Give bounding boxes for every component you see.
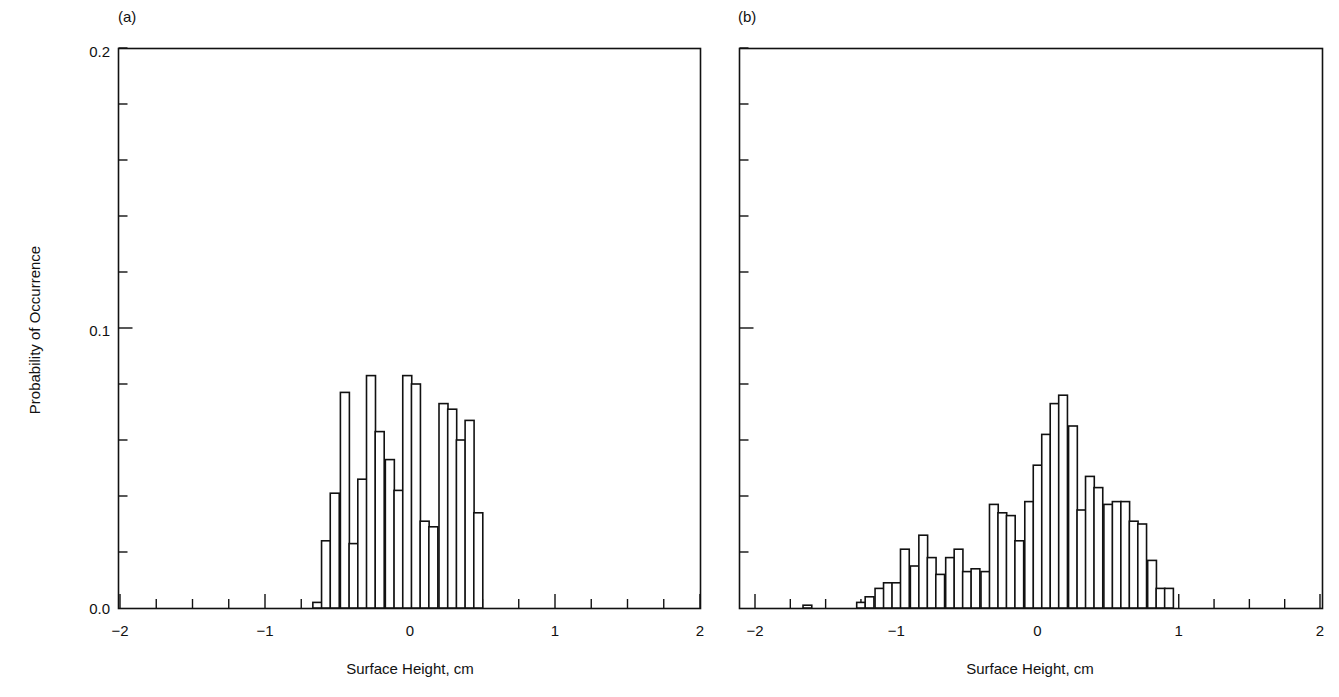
histogram-bar: [313, 602, 322, 608]
x-tick-label: −1: [888, 622, 905, 639]
histogram-bar: [1069, 426, 1078, 608]
panel-b-x-tick-labels: −2−1012: [746, 622, 1324, 639]
histogram-bar: [385, 460, 394, 608]
panel-a-x-axis-label: Surface Height, cm: [346, 660, 474, 677]
histogram-bar: [1025, 502, 1034, 608]
histogram-bar: [936, 574, 945, 608]
histogram-bar: [892, 583, 901, 608]
x-tick-label: 2: [1316, 622, 1324, 639]
histogram-bar: [1104, 504, 1113, 608]
histogram-bar: [411, 384, 420, 608]
histogram-bar: [1148, 560, 1157, 608]
panel-a-x-tick-labels: −2−1012: [111, 622, 704, 639]
histogram-bar: [910, 566, 919, 608]
histogram-bar: [900, 549, 909, 608]
x-tick-label: 0: [1033, 622, 1041, 639]
y-tick-0.2: 0.2: [89, 43, 110, 60]
histogram-bar: [919, 535, 928, 608]
histogram-bar: [1086, 476, 1095, 608]
panel-b-x-axis-label: Surface Height, cm: [966, 660, 1094, 677]
histogram-bar: [865, 597, 874, 608]
histogram-bar: [349, 544, 358, 608]
histogram-bar: [1156, 588, 1165, 608]
histogram-bar: [367, 376, 376, 608]
histogram-bar: [1129, 521, 1138, 608]
histogram-bar: [1006, 516, 1015, 608]
histogram-bar: [971, 569, 980, 608]
histogram-bar: [456, 440, 465, 608]
panel-a-label: (a): [118, 8, 136, 25]
histogram-bar: [474, 513, 483, 608]
x-tick-label: 2: [696, 622, 704, 639]
histogram-bar: [358, 479, 367, 608]
histogram-bar: [1121, 502, 1130, 608]
histogram-bar: [394, 490, 403, 608]
x-tick-label: 0: [406, 622, 414, 639]
histogram-bar: [954, 549, 963, 608]
histogram-bar: [884, 583, 893, 608]
histogram-bar: [439, 404, 448, 608]
histogram-bar: [1015, 541, 1024, 608]
x-tick-label: −2: [746, 622, 763, 639]
x-tick-label: 1: [1175, 622, 1183, 639]
y-axis-label: Probability of Occurrence: [26, 246, 43, 414]
histogram-bar: [1077, 510, 1086, 608]
histogram-bar: [1112, 502, 1121, 608]
panel-b-label: (b): [738, 8, 756, 25]
histogram-bar: [465, 420, 474, 608]
x-tick-label: −2: [111, 622, 128, 639]
histogram-bar: [403, 376, 412, 608]
x-tick-label: 1: [551, 622, 559, 639]
histogram-bar: [448, 409, 457, 608]
histogram-bar: [1042, 434, 1051, 608]
histogram-bar: [803, 605, 812, 608]
histogram-bar: [946, 558, 955, 608]
histogram-bar: [429, 527, 438, 608]
panel-a-histogram-bars: [313, 376, 483, 608]
histogram-bar: [322, 541, 331, 608]
y-tick-0.1: 0.1: [89, 322, 110, 339]
x-tick-label: −1: [256, 622, 273, 639]
histogram-bar: [375, 432, 384, 608]
histogram-bar: [875, 588, 884, 608]
histogram-bar: [927, 558, 936, 608]
histogram-bar: [1138, 524, 1147, 608]
histogram-bar: [998, 513, 1007, 608]
histogram-bar: [1033, 465, 1042, 608]
histogram-bar: [420, 521, 429, 608]
histogram-bar: [1059, 395, 1068, 608]
histogram-bar: [981, 572, 990, 608]
panel-b-histogram-bars: [803, 395, 1173, 608]
y-tick-0.0: 0.0: [89, 600, 110, 617]
histogram-bar: [857, 602, 866, 608]
histogram-bar: [1165, 588, 1174, 608]
histogram-bar: [963, 572, 972, 608]
histogram-bar: [1094, 488, 1103, 608]
histogram-bar: [989, 504, 998, 608]
histogram-bar: [340, 392, 349, 608]
figure: (a) (b) Probability of Occurrence 0.2 0.…: [0, 0, 1339, 697]
histogram-bar: [330, 493, 339, 608]
histogram-bar: [1050, 404, 1059, 608]
